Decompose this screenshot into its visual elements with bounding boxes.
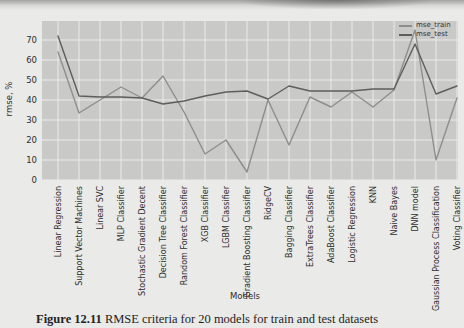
legend-row-train: mse_train [399, 22, 451, 29]
x-tick-label: LGBM Classifier [222, 185, 231, 248]
legend-row-test: mse_test [399, 31, 451, 38]
x-tick-label: DNN model [411, 186, 420, 232]
book-page-scan: 010203040506070Linear RegressionSupport … [0, 0, 464, 328]
y-tick-label: 10 [26, 155, 37, 165]
x-tick-label: Decision Tree Classifier [159, 185, 168, 278]
x-tick-label: Linear Regression [54, 186, 63, 257]
y-tick-label: 50 [26, 75, 37, 85]
figure-caption: Figure 12.11 RMSE criteria for 20 models… [36, 312, 456, 327]
x-axis-title: Models [145, 291, 345, 301]
y-tick-label: 30 [26, 115, 37, 125]
y-tick-label: 60 [26, 55, 37, 65]
x-tick-label: Random Forest Classifier [180, 185, 189, 285]
x-tick-label: MLP Classifier [117, 185, 126, 241]
legend-label-test: mse_test [416, 31, 448, 38]
figure-caption-text: RMSE criteria for 20 models for train an… [105, 312, 378, 326]
x-tick-label: Logistic Regression [348, 186, 357, 263]
y-tick-label: 40 [26, 95, 37, 105]
y-tick-label: 70 [26, 35, 37, 45]
x-tick-label: Bagging Classifier [285, 185, 294, 258]
chart-canvas: 010203040506070Linear RegressionSupport … [0, 0, 464, 312]
x-tick-label: ExtraTrees Classifier [306, 185, 315, 267]
x-tick-label: Gradient Boosting Classifier [243, 185, 252, 297]
chart-legend: mse_train mse_test [399, 22, 451, 38]
x-tick-label: AdaBoost Classifier [327, 185, 336, 263]
x-tick-label: XGB Classifier [201, 185, 210, 242]
x-tick-label: Support Vector Machines [75, 186, 84, 286]
rmse-line-chart: 010203040506070Linear RegressionSupport … [0, 0, 464, 312]
train-line-swatch-icon [399, 25, 412, 27]
y-tick-label: 20 [26, 135, 37, 145]
x-tick-label: Linear SVC [96, 186, 105, 230]
x-tick-label: Voting Classifier [453, 185, 462, 250]
x-tick-label: KNN [369, 186, 378, 203]
x-tick-label: Naive Bayes [390, 186, 399, 236]
legend-label-train: mse_train [416, 22, 451, 29]
y-tick-label: 0 [32, 175, 37, 185]
y-axis-title: rmse, % [4, 54, 14, 144]
x-tick-label: RidgeCV [264, 185, 273, 219]
x-tick-label: Gaussian Process Classification [432, 186, 441, 311]
test-line-swatch-icon [399, 34, 412, 36]
figure-caption-number: Figure 12.11 [36, 312, 102, 326]
x-tick-label: Stochastic Gradient Decent [138, 186, 147, 296]
